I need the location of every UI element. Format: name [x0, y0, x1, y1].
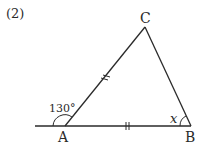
unknown-angle-label: x: [170, 111, 178, 126]
vertex-label-b: B: [185, 129, 195, 145]
vertex-label-c: C: [140, 10, 151, 26]
angle-arc-b: [180, 116, 186, 126]
side-cb: [145, 27, 191, 126]
triangle-diagram: (2) C A B 130° x: [0, 0, 206, 146]
exterior-angle-label: 130°: [49, 102, 76, 115]
vertex-label-a: A: [57, 129, 69, 145]
problem-number: (2): [6, 6, 24, 21]
side-ac: [65, 27, 145, 126]
